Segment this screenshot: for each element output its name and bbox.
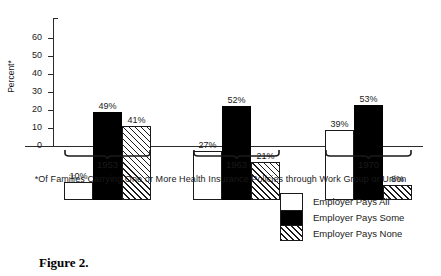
y-axis-top-cap — [53, 18, 58, 19]
y-tick-label-30: 30 — [16, 87, 42, 96]
y-tick-label-60: 60 — [16, 33, 42, 42]
y-tick-label-40: 40 — [16, 69, 42, 78]
group-year-label-1963: 1963 — [193, 159, 280, 170]
y-tick-20: 20 — [0, 110, 54, 111]
figure-caption: Figure 2. — [39, 255, 89, 270]
figure-container: 0 10 20 30 40 50 60 Percent* — [0, 0, 441, 276]
group-year-label-1970: 1970 — [325, 159, 412, 170]
chart-legend: Employer Pays All Employer Pays Some Emp… — [280, 193, 441, 243]
legend-swatch-stack — [280, 193, 303, 241]
y-tick-label-10: 10 — [16, 123, 42, 132]
legend-label-employer-pays-some: Employer Pays Some — [313, 212, 404, 223]
group-bracket-1963 — [193, 150, 280, 159]
group-year-label-1953: 1953 — [64, 159, 151, 170]
legend-swatch-employer-pays-all — [281, 194, 302, 210]
group-bracket-1953 — [64, 150, 151, 159]
y-tick-label-50: 50 — [16, 51, 42, 60]
y-tick-0: 0 — [0, 146, 54, 147]
legend-swatch-employer-pays-some — [281, 210, 302, 226]
y-tick-label-20: 20 — [16, 105, 42, 114]
legend-label-employer-pays-all: Employer Pays All — [313, 196, 390, 207]
bar-value-label: 41% — [117, 115, 157, 125]
y-axis-title: Percent* — [7, 47, 16, 107]
chart-footnote: *Of Families Carrying One or More Health… — [0, 174, 441, 185]
legend-swatch-employer-pays-none — [281, 226, 302, 240]
y-tick-10: 10 — [0, 128, 54, 129]
group-bracket-1970 — [325, 150, 412, 159]
y-tick-label-0: 0 — [16, 141, 42, 150]
chart-plot-area: 0 10 20 30 40 50 60 Percent* — [0, 0, 441, 200]
legend-label-employer-pays-none: Employer Pays None — [313, 228, 402, 239]
y-tick-60: 60 — [0, 38, 54, 39]
